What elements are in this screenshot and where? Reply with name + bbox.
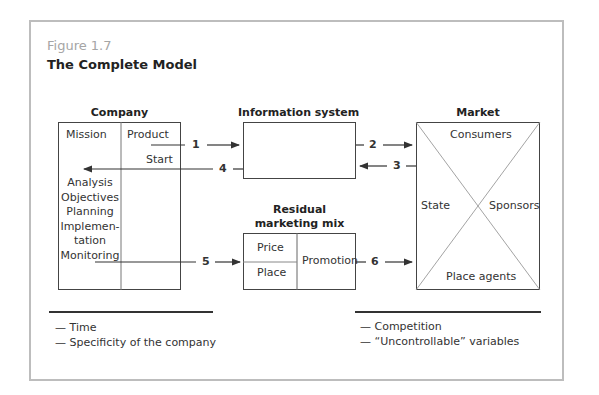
arrow-label-2: 2 bbox=[367, 138, 379, 151]
arrow-label-1: 1 bbox=[190, 138, 202, 151]
right-divider-rule bbox=[355, 311, 541, 313]
left-divider-rule bbox=[49, 311, 213, 313]
arrow-label-6: 6 bbox=[369, 255, 381, 268]
legend-competition: — Competition bbox=[360, 319, 519, 334]
legend-right: — Competition — “Uncontrollable” variabl… bbox=[360, 319, 519, 349]
legend-left: — Time — Specificity of the company bbox=[55, 320, 216, 350]
arrow-label-3: 3 bbox=[391, 159, 403, 172]
arrow-label-4: 4 bbox=[217, 162, 229, 175]
legend-specificity: — Specificity of the company bbox=[55, 335, 216, 350]
legend-time: — Time bbox=[55, 320, 216, 335]
legend-uncontrollable: — “Uncontrollable” variables bbox=[360, 334, 519, 349]
arrow-label-5: 5 bbox=[200, 255, 212, 268]
